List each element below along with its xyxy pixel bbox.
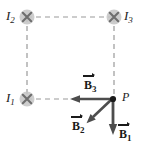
- vector-label-B2-symbol: B: [72, 120, 80, 132]
- vector-label-B2-subscript: 2: [80, 125, 85, 135]
- wire-label-I2: I2: [6, 9, 15, 22]
- vector-arrow-B1: [109, 99, 117, 135]
- wire-label-I3: I3: [124, 9, 133, 22]
- wire-marker-I2: [20, 10, 35, 25]
- wire-marker-I3: [107, 10, 122, 25]
- wire-label-I3-subscript: 3: [128, 15, 133, 25]
- wire-label-I1-subscript: 1: [10, 97, 15, 107]
- wire-marker-I1: [20, 92, 35, 107]
- vector-label-B3: B3: [84, 79, 97, 91]
- vector-arrow-B2: [87, 99, 113, 123]
- vector-label-B3-subscript: 3: [92, 84, 97, 94]
- wire-label-I1: I1: [6, 91, 15, 104]
- physics-field-diagram: I2 I3 I1 P B3 B2 B1: [0, 0, 143, 151]
- point-p-dot: [110, 96, 116, 102]
- vector-label-B3-symbol: B: [84, 79, 92, 91]
- wire-label-I2-subscript: 2: [10, 15, 15, 25]
- vector-label-B1-subscript: 1: [127, 133, 132, 143]
- vector-label-B1: B1: [119, 128, 132, 140]
- vector-arrow-B3: [70, 95, 112, 103]
- dashed-construction-lines: [27, 17, 114, 99]
- vector-label-B1-symbol: B: [119, 128, 127, 140]
- vector-label-B2: B2: [72, 120, 85, 132]
- point-label-P: P: [122, 91, 129, 103]
